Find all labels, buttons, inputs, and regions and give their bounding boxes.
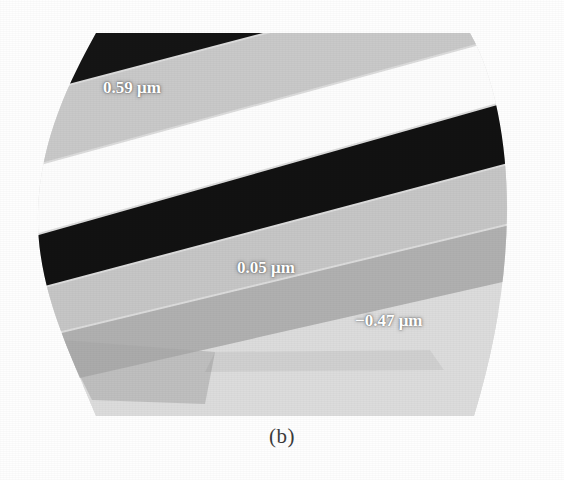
figure-panel: 0.59 μm 0.05 μm −0.47 μm (b) xyxy=(0,0,564,480)
fea-contour-figure xyxy=(0,0,564,430)
bottom-inner-3d-face xyxy=(205,350,444,372)
contour-band-group xyxy=(0,0,564,430)
figure-caption: (b) xyxy=(0,424,564,449)
